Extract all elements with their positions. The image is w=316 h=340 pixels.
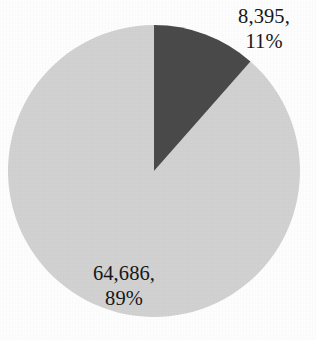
pie-label-dark-percent: 11% bbox=[216, 29, 312, 54]
pie-label-dark-value: 8,395, bbox=[216, 4, 312, 29]
pie-label-light: 64,686, 89% bbox=[58, 261, 190, 311]
pie-label-light-percent: 89% bbox=[58, 286, 190, 311]
pie-label-light-value: 64,686, bbox=[58, 261, 190, 286]
pie-label-dark: 8,395, 11% bbox=[216, 4, 312, 54]
pie-chart-figure: 8,395, 11% 64,686, 89% bbox=[0, 0, 316, 340]
